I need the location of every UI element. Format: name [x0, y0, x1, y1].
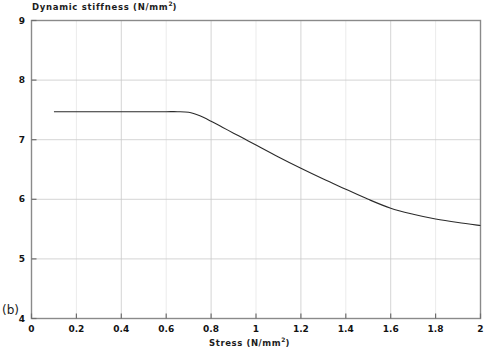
- x-gridlines: [76, 21, 435, 319]
- x-tick-label: 0.4: [106, 324, 136, 334]
- y-tick-label: 9: [11, 16, 25, 26]
- x-axis-title-tail: ): [285, 338, 290, 348]
- y-tick-label: 4: [11, 314, 25, 324]
- figure-panel-b: (b) Dynamic stiffness (N/mm2) Stress (N/…: [0, 0, 492, 349]
- plot-area: [0, 0, 492, 349]
- y-tick-label: 5: [11, 254, 25, 264]
- x-tick-label: 1.2: [286, 324, 316, 334]
- x-tick-label: 1: [241, 324, 271, 334]
- x-tick-label: 0.6: [151, 324, 181, 334]
- x-tick-label: 0.2: [61, 324, 91, 334]
- x-tick-label: 1.4: [331, 324, 361, 334]
- chart-title-tail: ): [173, 2, 178, 12]
- y-tick-label: 6: [11, 194, 25, 204]
- chart-title-text: Dynamic stiffness (N/mm: [32, 2, 168, 12]
- x-tick-label: 2: [466, 324, 492, 334]
- y-tick-label: 8: [11, 75, 25, 85]
- chart-title: Dynamic stiffness (N/mm2): [32, 0, 177, 12]
- data-series-line: [54, 112, 481, 226]
- x-axis-title: Stress (N/mm2): [209, 336, 290, 348]
- x-tick-label: 0.8: [196, 324, 226, 334]
- x-axis-title-text: Stress (N/mm: [209, 338, 281, 348]
- y-tick-label: 7: [11, 135, 25, 145]
- x-tick-label: 1.8: [421, 324, 451, 334]
- x-tick-label: 0: [17, 324, 47, 334]
- x-tick-label: 1.6: [376, 324, 406, 334]
